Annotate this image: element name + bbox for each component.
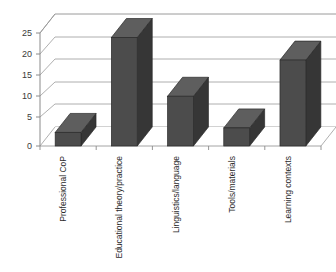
bar-side-face bbox=[137, 19, 152, 146]
chart-canvas: 25 20 15 10 5 0 Professional CoPEducatio… bbox=[0, 0, 336, 272]
bar-front-face bbox=[55, 132, 81, 146]
y-tick-label-5: 5 bbox=[27, 112, 32, 122]
y-tick-label-25: 25 bbox=[22, 28, 32, 38]
bar-front-face bbox=[280, 60, 306, 146]
bar-chart: 25 20 15 10 5 0 Professional CoPEducatio… bbox=[0, 0, 336, 272]
bar-front-face bbox=[224, 128, 250, 146]
bar-front-face bbox=[111, 38, 137, 146]
back-wall-top-band bbox=[40, 14, 336, 33]
category-label-4: Tools/materials bbox=[227, 156, 237, 213]
y-tick-label-20: 20 bbox=[22, 49, 32, 59]
category-label-3: Linguistics/language bbox=[171, 156, 181, 233]
category-label-5: Learning contexts bbox=[283, 156, 293, 223]
bar-2 bbox=[111, 19, 152, 146]
y-tick-label-15: 15 bbox=[22, 70, 32, 80]
bar-5 bbox=[280, 41, 321, 146]
y-tick-label-10: 10 bbox=[22, 91, 32, 101]
category-label-1: Professional CoP bbox=[58, 156, 68, 222]
y-tick-label-0: 0 bbox=[27, 141, 32, 151]
category-label-2: Educational theory/practice bbox=[114, 156, 124, 259]
bar-front-face bbox=[168, 96, 194, 146]
